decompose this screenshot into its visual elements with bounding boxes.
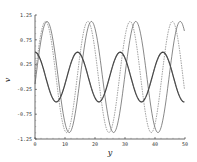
y-tick-label: 0.75 bbox=[20, 37, 32, 43]
y-axis: 1.250.750.25-0.25-0.75-1.25 bbox=[17, 12, 37, 142]
plot-lines bbox=[35, 21, 184, 132]
y-tick-label: -0.75 bbox=[17, 111, 32, 117]
y-tick-label: 1.25 bbox=[20, 12, 32, 18]
y-tick-label: 0.25 bbox=[20, 61, 32, 67]
x-tick-label: 30 bbox=[122, 141, 128, 147]
x-axis-label: y bbox=[107, 148, 113, 157]
x-tick-label: 40 bbox=[152, 141, 158, 147]
x-tick-label: 10 bbox=[62, 141, 68, 147]
x-axis: 01020304050 bbox=[33, 137, 188, 147]
chart: 1.250.750.25-0.25-0.75-1.25 01020304050 … bbox=[0, 0, 197, 162]
y-tick-label: -0.25 bbox=[17, 86, 32, 92]
x-tick-label: 50 bbox=[182, 141, 188, 147]
y-axis-label: v bbox=[3, 77, 12, 82]
y-tick-label: -1.25 bbox=[17, 136, 32, 142]
x-tick-label: 0 bbox=[33, 141, 36, 147]
x-tick-label: 20 bbox=[92, 141, 98, 147]
